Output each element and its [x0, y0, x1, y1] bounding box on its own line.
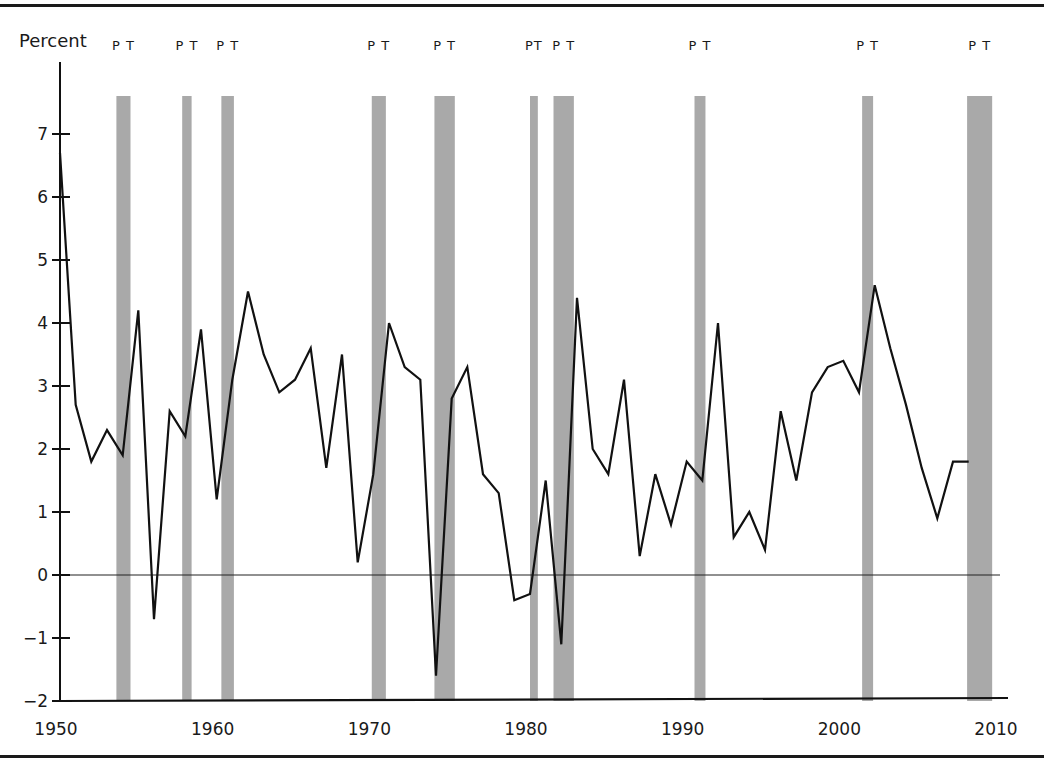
x-tick-label: 1990	[661, 719, 704, 739]
recession-bars	[116, 96, 992, 701]
y-tick-label: 1	[37, 502, 48, 522]
y-tick-label: 7	[37, 124, 48, 144]
x-axis-ticks: 1950196019701980199020002010	[34, 719, 1017, 739]
recession-bar	[695, 96, 706, 701]
x-tick-label: 1950	[34, 719, 77, 739]
x-tick-label: 1970	[348, 719, 391, 739]
x-tick-label: 2000	[818, 719, 861, 739]
recession-bar	[862, 96, 873, 701]
data-series-line	[60, 153, 969, 676]
y-tick-label: 2	[37, 439, 48, 459]
recession-bar	[372, 96, 386, 701]
y-tick-label: −2	[23, 691, 48, 711]
peak-trough-label: P T	[689, 38, 712, 53]
recession-bar	[530, 96, 538, 701]
y-tick-label: 4	[37, 313, 48, 333]
peak-trough-label: P T	[856, 38, 879, 53]
y-tick-label: 5	[37, 250, 48, 270]
x-tick-label: 2010	[974, 719, 1017, 739]
y-tick-label: 3	[37, 376, 48, 396]
x-tick-label: 1980	[504, 719, 547, 739]
recession-bar	[221, 96, 234, 701]
y-tick-label: 0	[37, 565, 48, 585]
peak-trough-label: P T	[968, 38, 991, 53]
x-tick-label: 1960	[191, 719, 234, 739]
peak-trough-label: P T	[552, 38, 575, 53]
line-chart: P TP TP TP TP TPTP TP TP TP T −2−1012345…	[0, 0, 1044, 759]
y-tick-label: 6	[37, 187, 48, 207]
bottom-border	[0, 755, 1044, 758]
peak-trough-labels: P TP TP TP TP TPTP TP TP TP T	[112, 38, 991, 53]
peak-trough-label: PT	[525, 38, 543, 53]
peak-trough-label: P T	[112, 38, 135, 53]
recession-bar	[967, 96, 992, 701]
peak-trough-label: P T	[175, 38, 198, 53]
peak-trough-label: P T	[433, 38, 456, 53]
y-tick-label: −1	[23, 628, 48, 648]
peak-trough-label: P T	[367, 38, 390, 53]
peak-trough-label: P T	[216, 38, 239, 53]
